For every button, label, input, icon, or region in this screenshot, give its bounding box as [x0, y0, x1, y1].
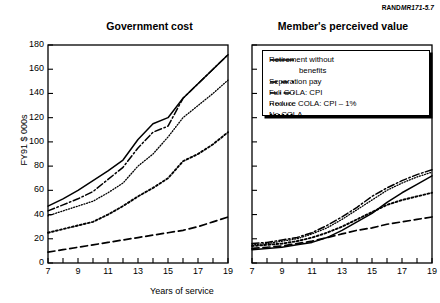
- legend-swatch-dotted-fine-icon: [269, 99, 295, 108]
- legend-swatch-dash-dot-icon: [269, 88, 295, 97]
- legend: Retirement withoutbenefitsSeparation pay…: [262, 50, 430, 116]
- legend-item-no_cola: No COLA: [269, 110, 302, 119]
- legend-item-full_cola_cpi: Full COLA: CPI: [269, 88, 322, 97]
- plot-canvas: [0, 0, 440, 303]
- legend-label: benefits: [299, 66, 326, 75]
- legend-item-separation_pay: Separation pay: [269, 77, 321, 86]
- legend-swatch-dotted-coarse-icon: [269, 110, 295, 119]
- legend-item-reduce_cola_cpi_minus_1: Reduce COLA: CPI – 1%: [269, 99, 357, 108]
- legend-swatch-solid-icon: [269, 55, 295, 64]
- legend-item-retirement_without_benefits-line2: benefits: [299, 66, 326, 75]
- legend-swatch-dashed-icon: [269, 77, 295, 86]
- plot-frame-0: [48, 45, 228, 263]
- figure-root: RANDMR171-5.7 Government cost Member's p…: [0, 0, 440, 303]
- legend-item-retirement_without_benefits: Retirement without: [269, 55, 334, 64]
